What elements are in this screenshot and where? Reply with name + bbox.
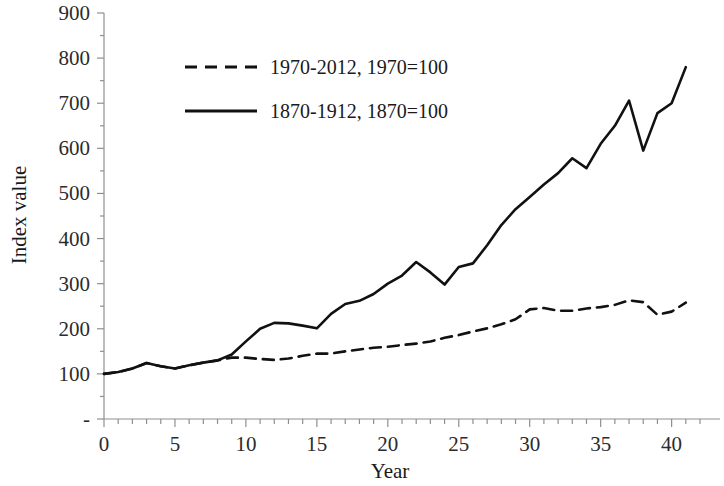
x-tick-label: 40 (661, 432, 682, 456)
x-tick-label: 0 (99, 432, 110, 456)
line-chart: -100200300400500600700800900 05101520253… (0, 0, 724, 486)
y-axis: -100200300400500600700800900 (59, 1, 105, 431)
x-axis-title: Year (371, 459, 410, 483)
x-tick-label: 15 (306, 432, 327, 456)
y-tick-label: 400 (59, 227, 91, 251)
x-tick-label: 20 (377, 432, 398, 456)
y-tick-label: 300 (59, 272, 91, 296)
x-axis: 0510152025303540 (99, 419, 720, 456)
plot-area: -100200300400500600700800900 05101520253… (7, 1, 720, 483)
y-axis-title: Index value (7, 166, 31, 265)
y-tick-label: 500 (59, 181, 91, 205)
y-tick-label: 100 (59, 362, 91, 386)
y-tick-label: 600 (59, 136, 91, 160)
legend-label-1: 1970-2012, 1970=100 (270, 56, 448, 78)
y-tick-label: 200 (59, 317, 91, 341)
series-line-1 (104, 300, 686, 374)
chart-legend: 1970-2012, 1970=1001870-1912, 1870=100 (185, 56, 448, 122)
x-tick-label: 5 (170, 432, 181, 456)
chart-container: -100200300400500600700800900 05101520253… (0, 0, 724, 486)
y-tick-label: 700 (59, 91, 91, 115)
legend-label-2: 1870-1912, 1870=100 (270, 100, 448, 122)
x-tick-label: 25 (448, 432, 469, 456)
y-tick-label: 800 (59, 46, 91, 70)
x-tick-label: 10 (235, 432, 256, 456)
y-tick-label: 900 (59, 1, 91, 25)
x-tick-label: 30 (519, 432, 540, 456)
y-tick-label: - (83, 407, 90, 431)
x-tick-label: 35 (590, 432, 611, 456)
